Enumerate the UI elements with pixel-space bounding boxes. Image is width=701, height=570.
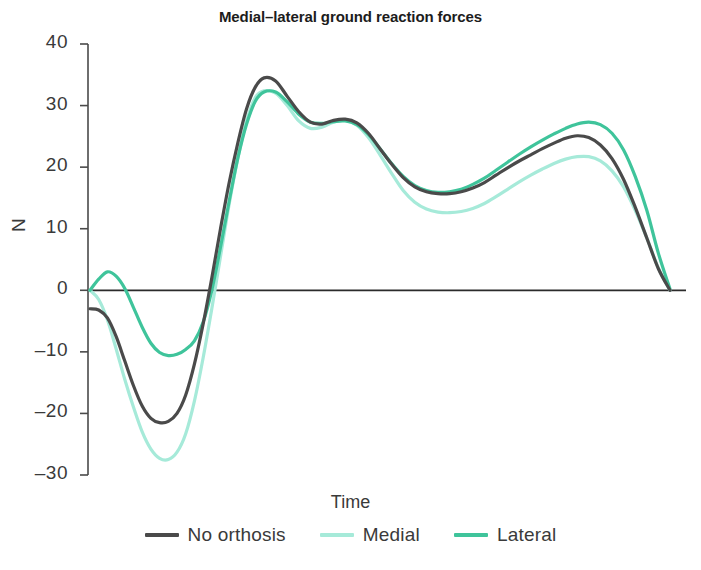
legend-label: Medial [363,524,420,546]
plot-area [0,0,701,570]
legend-item[interactable]: Lateral [454,524,557,546]
axis-lines [80,44,686,475]
series-line-lateral [90,91,670,356]
legend-label: No orthosis [188,524,286,546]
series-line-no-orthosis [90,77,670,422]
legend-label: Lateral [497,524,557,546]
chart-figure: Medial–lateral ground reaction forces N … [0,0,701,570]
legend-item[interactable]: No orthosis [145,524,286,546]
data-series-group [90,77,670,460]
legend-item[interactable]: Medial [320,524,420,546]
legend-swatch-line-icon [454,533,488,537]
x-axis-title: Time [0,492,701,513]
series-line-medial [90,91,670,461]
legend-swatch-line-icon [145,533,179,537]
legend-swatch-line-icon [320,533,354,537]
chart-legend: No orthosisMedialLateral [0,524,701,546]
